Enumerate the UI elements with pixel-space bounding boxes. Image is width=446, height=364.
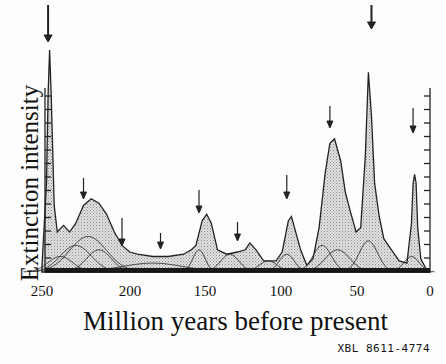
plot-area <box>23 50 434 272</box>
x-tick-50: 50 <box>337 283 377 300</box>
arrow-icon <box>327 106 333 128</box>
x-axis-label: Million years before present <box>0 306 446 337</box>
figure-code: XBL 8611-4774 <box>337 342 430 355</box>
arrow-icon <box>367 5 375 29</box>
x-tick-200: 200 <box>110 283 150 300</box>
arrow-icon <box>158 233 164 249</box>
arrow-icon <box>284 175 290 199</box>
x-tick-150: 150 <box>185 283 225 300</box>
x-tick-0: 0 <box>410 283 446 300</box>
arrow-icon <box>196 190 202 213</box>
x-tick-250: 250 <box>22 283 62 300</box>
y-axis-right <box>424 88 430 272</box>
y-axis-label: Extinction intensity <box>15 83 45 283</box>
extinction-envelope <box>42 50 430 272</box>
arrow-icon <box>410 108 416 133</box>
arrow-icon <box>81 178 87 199</box>
arrow-icon <box>119 218 125 246</box>
arrow-icon <box>235 222 241 241</box>
x-tick-100: 100 <box>261 283 301 300</box>
arrow-icon <box>44 5 52 42</box>
